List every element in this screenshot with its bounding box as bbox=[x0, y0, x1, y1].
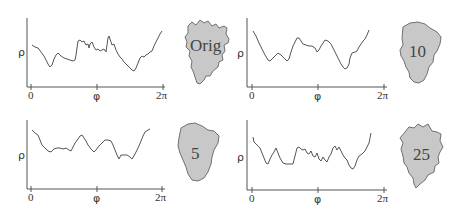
profile-curve bbox=[253, 30, 369, 69]
panel-10: ρ 0 φ 2π 10 bbox=[237, 18, 441, 103]
profile-curve bbox=[32, 31, 162, 71]
x-axis-label: φ bbox=[93, 192, 100, 205]
x-tick-label-0: 0 bbox=[28, 89, 34, 101]
profile-curve bbox=[253, 133, 371, 169]
y-axis-label: ρ bbox=[18, 46, 25, 59]
y-axis-label: ρ bbox=[237, 151, 244, 164]
shape-label: Orig bbox=[190, 36, 222, 55]
x-tick-label-0: 0 bbox=[249, 192, 255, 204]
x-axis-label: φ bbox=[314, 193, 321, 206]
x-tick-label-0: 0 bbox=[28, 191, 34, 203]
y-axis-label: ρ bbox=[237, 47, 244, 60]
profile-curve bbox=[32, 129, 150, 159]
panel-25: ρ 0 φ 2π 25 bbox=[237, 120, 443, 206]
panel-orig: ρ 0 φ 2π Orig bbox=[18, 18, 229, 103]
shape-label: 10 bbox=[409, 42, 426, 61]
x-axis-label: φ bbox=[314, 90, 321, 103]
panel-5: ρ 0 φ 2π 5 bbox=[18, 120, 219, 205]
y-axis-label: ρ bbox=[18, 149, 25, 162]
shape-label: 5 bbox=[191, 144, 200, 163]
x-tick-label-0: 0 bbox=[249, 89, 255, 101]
x-tick-label-2pi: 2π bbox=[377, 89, 389, 101]
shape-label: 25 bbox=[413, 145, 430, 164]
x-tick-label-2pi: 2π bbox=[377, 192, 389, 204]
x-tick-label-2pi: 2π bbox=[156, 89, 168, 101]
x-axis-label: φ bbox=[93, 90, 100, 103]
x-tick-label-2pi: 2π bbox=[155, 191, 167, 203]
figure: ρ 0 φ 2π Orig ρ 0 φ 2π 10 ρ 0 φ 2π 5 bbox=[0, 0, 471, 212]
